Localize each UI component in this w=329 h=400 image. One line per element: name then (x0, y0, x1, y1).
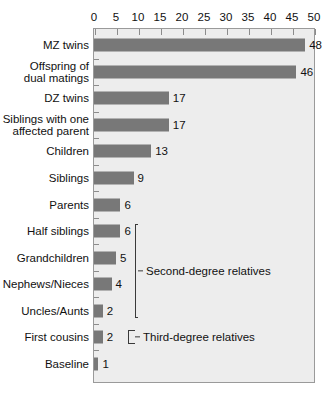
category-label: Baseline (0, 357, 89, 370)
row-tick (94, 350, 99, 351)
bar-value-label: 5 (120, 252, 126, 264)
category-label: Children (0, 145, 89, 158)
group-bracket (128, 330, 135, 344)
bracket-nub (135, 337, 140, 338)
category-label: Nephews/Nieces (0, 278, 89, 291)
x-tick-label: 40 (264, 10, 277, 24)
x-tick-label: 5 (113, 10, 119, 24)
bracket-nub (138, 270, 143, 271)
x-tick-mark (315, 29, 316, 35)
bar (94, 92, 169, 105)
bar-value-label: 17 (173, 92, 186, 104)
category-label: Grandchildren (0, 251, 89, 264)
category-label: Siblings (0, 172, 89, 185)
x-tick-label: 45 (286, 10, 299, 24)
row-tick (94, 244, 99, 245)
x-tick-mark (205, 29, 206, 35)
bracket-label: Second-degree relatives (146, 264, 271, 277)
x-tick-label: 35 (242, 10, 255, 24)
row-tick (94, 271, 99, 272)
x-tick-label: 20 (176, 10, 189, 24)
x-tick-label: 50 (308, 10, 321, 24)
bar (94, 357, 98, 370)
row-tick (94, 218, 99, 219)
x-tick-label: 15 (154, 10, 167, 24)
row-tick (94, 112, 99, 113)
x-tick-mark (249, 29, 250, 35)
category-label: Parents (0, 198, 89, 211)
x-tick-mark (271, 29, 272, 35)
bar (94, 198, 120, 211)
category-label: Offspring of dual matings (0, 59, 89, 84)
bar-value-label: 6 (124, 225, 130, 237)
bar-value-label: 1 (102, 358, 108, 370)
x-tick-mark (161, 29, 162, 35)
x-tick-mark (139, 29, 140, 35)
bar (94, 171, 134, 184)
category-label: Half siblings (0, 225, 89, 238)
bar (94, 118, 169, 131)
bar (94, 145, 151, 158)
x-tick-label: 0 (91, 10, 97, 24)
x-tick-mark (117, 29, 118, 35)
bar-value-label: 48 (309, 39, 322, 51)
row-tick (94, 324, 99, 325)
x-tick-label: 25 (198, 10, 211, 24)
x-tick-label: 10 (132, 10, 145, 24)
bar (94, 251, 116, 264)
bar-value-label: 13 (155, 145, 168, 157)
bar-value-label: 17 (173, 119, 186, 131)
bar-value-label: 4 (116, 278, 122, 290)
bar (94, 304, 103, 317)
bar (94, 65, 296, 78)
row-tick (94, 85, 99, 86)
bar (94, 39, 305, 52)
row-tick (94, 191, 99, 192)
bracket-label: Third-degree relatives (143, 331, 255, 344)
bar (94, 331, 103, 344)
bar-chart: 05101520253035404550 MZ twins48Offspring… (0, 0, 329, 400)
bar (94, 225, 120, 238)
bar-value-label: 46 (300, 66, 313, 78)
bar-value-label: 2 (107, 331, 113, 343)
x-tick-mark (95, 29, 96, 35)
category-label: MZ twins (0, 39, 89, 52)
x-tick-label: 30 (220, 10, 233, 24)
bar-value-label: 9 (138, 172, 144, 184)
x-tick-mark (293, 29, 294, 35)
bar-value-label: 2 (107, 305, 113, 317)
x-axis-labels: 05101520253035404550 (93, 10, 315, 26)
x-tick-mark (227, 29, 228, 35)
row-tick (94, 297, 99, 298)
category-label: Siblings with one affected parent (0, 112, 89, 137)
category-label: DZ twins (0, 92, 89, 105)
category-label: First cousins (0, 331, 89, 344)
bar-value-label: 6 (124, 199, 130, 211)
category-label: Uncles/Aunts (0, 304, 89, 317)
row-tick (94, 165, 99, 166)
x-tick-mark (183, 29, 184, 35)
bar (94, 278, 112, 291)
row-tick (94, 138, 99, 139)
row-tick (94, 59, 99, 60)
